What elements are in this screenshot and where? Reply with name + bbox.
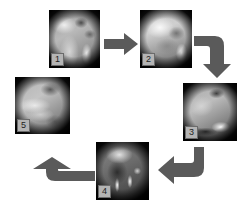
- image-panel-4[interactable]: 4: [96, 142, 149, 200]
- panel-label-3: 3: [185, 126, 198, 139]
- image-panel-2[interactable]: 2: [140, 10, 192, 68]
- panel-label-5: 5: [17, 119, 30, 132]
- panel-label-2: 2: [142, 53, 155, 66]
- panel-label-1: 1: [51, 53, 64, 66]
- cycle-diagram: 1 2 3 4 5: [0, 0, 248, 209]
- image-panel-1[interactable]: 1: [49, 10, 100, 68]
- image-panel-3[interactable]: 3: [183, 83, 237, 141]
- arrow-panel2-to-panel3: [194, 36, 224, 78]
- arrow-panel4-to-panel5: [33, 157, 95, 191]
- image-panel-5[interactable]: 5: [15, 77, 70, 134]
- panel-label-4: 4: [98, 185, 111, 198]
- arrow-panel1-to-panel2: [104, 33, 138, 55]
- arrow-panel3-to-panel4: [158, 147, 204, 187]
